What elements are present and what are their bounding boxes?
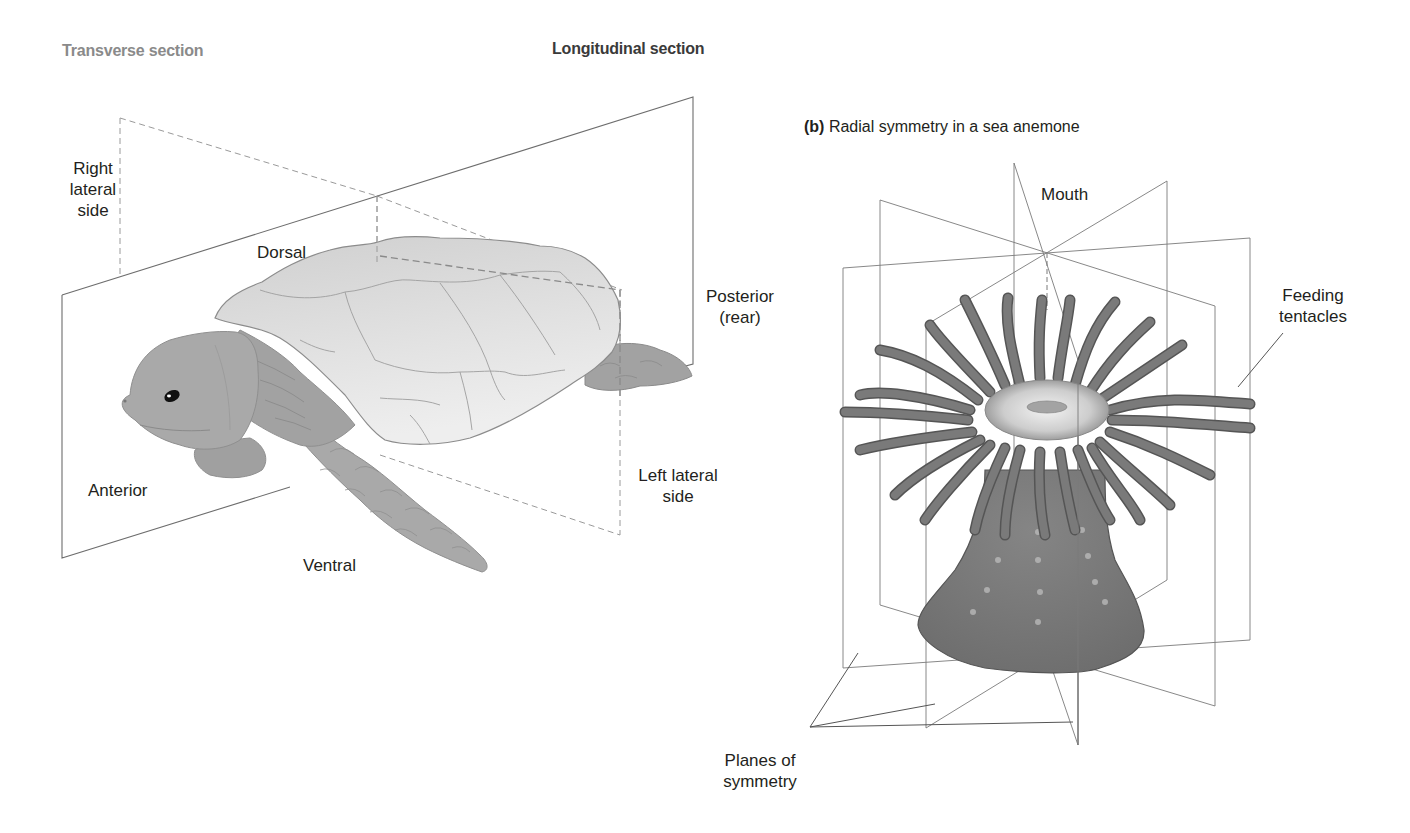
- label-left-lateral-side: Left lateral side: [626, 465, 730, 507]
- label-right-lateral-side: Right lateral side: [58, 158, 128, 221]
- label-posterior: Posterior (rear): [700, 286, 780, 328]
- turtle-head: [122, 331, 258, 449]
- heading-longitudinal-section: Longitudinal section: [552, 40, 704, 58]
- label-planes-of-symmetry: Planes of symmetry: [705, 750, 815, 792]
- anemone-figure: [843, 163, 1250, 745]
- label-feeding-tentacles: Feeding tentacles: [1268, 285, 1358, 327]
- diagram-artwork: [0, 0, 1410, 833]
- label-anterior: Anterior: [88, 480, 148, 501]
- anemone-column: [918, 470, 1144, 673]
- caption-radial-symmetry: (b) Radial symmetry in a sea anemone: [804, 118, 1080, 136]
- mouth-opening: [1027, 401, 1067, 413]
- heading-transverse-section: Transverse section: [62, 42, 203, 60]
- label-mouth: Mouth: [1041, 184, 1088, 205]
- turtle-figure: [62, 97, 693, 572]
- label-dorsal: Dorsal: [257, 242, 306, 263]
- label-ventral: Ventral: [303, 555, 356, 576]
